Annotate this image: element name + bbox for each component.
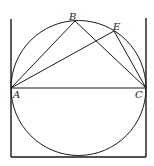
segment-ec — [114, 31, 146, 88]
segment-ae — [11, 31, 114, 88]
label-b: B — [68, 11, 76, 22]
label-a: A — [12, 89, 20, 100]
label-e: E — [112, 21, 121, 32]
segment-bc — [75, 21, 146, 88]
label-c: C — [135, 89, 143, 100]
geometry-diagram: B E A C — [0, 0, 154, 166]
